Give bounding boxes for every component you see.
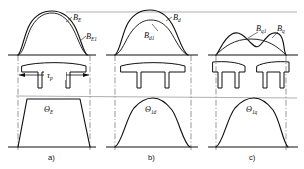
panel-b-leader-bd1 xyxy=(152,24,158,31)
label-b-d: Bd xyxy=(173,13,181,23)
panel-c: Bq1 Bq Θ1q c) xyxy=(208,24,298,162)
label-b-q1: Bq1 xyxy=(256,24,267,34)
panel-c-caption: c) xyxy=(249,153,256,162)
panel-b: Bd Bd1 Θ1d b) xyxy=(106,10,198,162)
label-b-q: Bq xyxy=(277,24,285,34)
panel-c-pole-shoe-left xyxy=(213,62,245,88)
label-b-e1: BE1 xyxy=(86,32,97,42)
curve-theta-e xyxy=(18,99,90,147)
panel-c-pole-shoe-right xyxy=(257,62,289,88)
panel-b-caption: b) xyxy=(148,153,155,162)
panel-b-pole-shoe xyxy=(121,63,185,88)
panel-a: BE BE1 τp ΘE a) xyxy=(8,11,97,162)
label-b-e: BE xyxy=(73,13,82,23)
figure-container: BE BE1 τp ΘE a) xyxy=(0,0,304,169)
label-theta-1d: Θ1d xyxy=(145,105,157,115)
curve-b-q xyxy=(216,39,286,55)
diagram-svg: BE BE1 τp ΘE a) xyxy=(0,0,304,169)
panel-a-caption: a) xyxy=(48,153,55,162)
label-theta-1q: Θ1q xyxy=(246,105,258,115)
label-b-d1: Bd1 xyxy=(144,31,155,41)
curve-theta-1d xyxy=(115,98,190,147)
curve-theta-1q xyxy=(216,98,288,147)
label-theta-e: ΘE xyxy=(44,105,54,115)
